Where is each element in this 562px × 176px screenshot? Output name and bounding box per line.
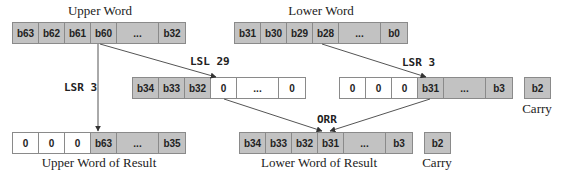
lsr-lower-arrow — [322, 44, 426, 77]
arrows-layer — [0, 0, 562, 176]
orr-arrow-left — [224, 99, 322, 131]
lsl-arrow — [100, 44, 216, 77]
orr-arrow-right — [330, 99, 430, 131]
